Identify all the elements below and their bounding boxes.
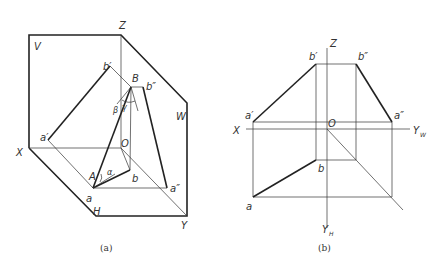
- label-origin-a: O: [121, 138, 129, 149]
- label-beta: β: [112, 106, 118, 115]
- proj-b-O: [121, 148, 130, 170]
- label-b-dprime-a: b″: [146, 81, 156, 92]
- caption-b: (b): [318, 243, 331, 253]
- gamma-ray: [131, 87, 138, 111]
- label-gamma: γ: [122, 103, 128, 112]
- proj-a-prime-a: [48, 140, 93, 188]
- label-A: A: [88, 171, 96, 182]
- label-alpha: α: [107, 168, 113, 177]
- label-B: B: [132, 73, 139, 84]
- label-a-dprime-b: a″: [394, 110, 404, 121]
- caption-a: (a): [100, 243, 112, 253]
- label-yh-subscript: H: [329, 230, 334, 237]
- proj-b-prime-B: [110, 66, 131, 87]
- angle-arc-B: [122, 100, 135, 102]
- label-b-b: b: [318, 163, 324, 174]
- figure-b: Z b′ b″ a′ a″ X O Y W b a Y H (b): [232, 38, 427, 253]
- segment-a-dprime-b-dprime-b: [356, 64, 392, 122]
- segment-a-prime-b-prime-b: [253, 64, 316, 122]
- alpha-arc: [100, 174, 102, 182]
- label-y-a: Y: [181, 220, 188, 231]
- figure-a: Z V W X O Y H b′ a′ B b″ A α β γ a b a″ …: [15, 20, 188, 253]
- projection-diagram: Z V W X O Y H b′ a′ B b″ A α β γ a b a″ …: [0, 0, 432, 271]
- proj-B-b: [130, 87, 131, 170]
- segment-a-prime-b-prime: [48, 66, 110, 140]
- label-a-b: a: [246, 201, 252, 212]
- label-a-dprime-a: a″: [170, 183, 180, 194]
- y-axis: [121, 148, 187, 216]
- label-b-prime-b: b′: [309, 51, 318, 62]
- segment-ab-b: [253, 160, 316, 197]
- label-v-plane: V: [34, 41, 42, 52]
- diagonal-45-line: [327, 129, 403, 210]
- label-w-plane: W: [176, 111, 187, 122]
- label-a-a: a: [86, 193, 92, 204]
- label-z-b: Z: [329, 38, 338, 49]
- label-h-plane: H: [93, 206, 101, 217]
- label-x-a: X: [15, 147, 24, 158]
- segment-a-dprime-b-dprime: [143, 87, 167, 188]
- label-origin-b: O: [328, 118, 336, 129]
- label-a-prime-b: a′: [245, 110, 254, 121]
- label-yw-subscript: W: [420, 131, 427, 138]
- label-b-prime-a: b′: [103, 61, 112, 72]
- label-b-dprime-b: b″: [358, 51, 368, 62]
- label-yw: Y: [413, 125, 420, 136]
- label-yh: Y: [322, 224, 329, 235]
- label-b-a: b: [132, 173, 138, 184]
- label-x-b: X: [232, 125, 241, 136]
- label-a-prime-a: a′: [40, 132, 49, 143]
- label-z-a: Z: [118, 20, 127, 31]
